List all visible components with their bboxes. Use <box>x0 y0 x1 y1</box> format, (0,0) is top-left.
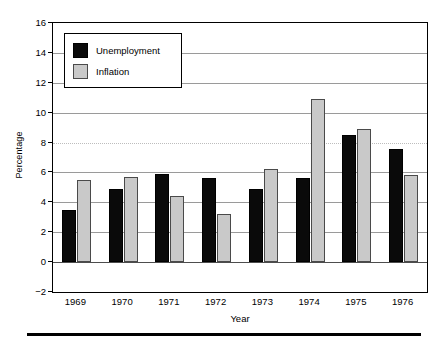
bar-group-1976 <box>380 23 427 292</box>
bar-unemployment-1975 <box>342 135 356 262</box>
bar-inflation-1970 <box>124 177 138 262</box>
y-tick-mark <box>48 231 52 232</box>
y-tick-mark <box>48 291 52 292</box>
legend-entry-inflation: Inflation <box>73 61 181 82</box>
x-tick-label-1973: 1973 <box>252 296 273 307</box>
bar-inflation-1972 <box>217 214 231 262</box>
chart-legend: Unemployment Inflation <box>64 33 182 88</box>
bottom-horizontal-rule <box>27 333 421 336</box>
bar-unemployment-1972 <box>202 178 216 262</box>
x-tick-label-1971: 1971 <box>158 296 179 307</box>
legend-label-inflation: Inflation <box>96 66 129 77</box>
legend-label-unemployment: Unemployment <box>96 45 160 56</box>
y-tick-label: 14 <box>35 46 46 57</box>
y-tick-label: 0 <box>41 256 46 267</box>
y-tick-mark <box>48 201 52 202</box>
bar-group-1975 <box>334 23 381 292</box>
bar-group-1973 <box>240 23 287 292</box>
y-tick-label: 16 <box>35 17 46 28</box>
bar-unemployment-1969 <box>62 210 76 262</box>
y-tick-mark <box>48 82 52 83</box>
y-tick-label: 12 <box>35 76 46 87</box>
x-axis-tick-labels: 19691970197119721973197419751976 <box>52 296 428 312</box>
bar-group-1974 <box>287 23 334 292</box>
bar-group-1972 <box>193 23 240 292</box>
legend-swatch-unemployment <box>73 43 88 58</box>
x-axis-title: Year <box>52 313 428 324</box>
x-tick-label-1974: 1974 <box>299 296 320 307</box>
bar-inflation-1969 <box>77 180 91 262</box>
y-tick-label: 4 <box>41 196 46 207</box>
y-axis-title: Percentage <box>14 110 24 200</box>
x-tick-label-1969: 1969 <box>65 296 86 307</box>
bar-unemployment-1970 <box>109 189 123 262</box>
y-tick-label: 10 <box>35 106 46 117</box>
bar-unemployment-1976 <box>389 149 403 263</box>
y-tick-mark <box>48 112 52 113</box>
bar-chart-figure: Percentage −20246810121416 1969197019711… <box>0 0 446 342</box>
bar-inflation-1976 <box>404 175 418 262</box>
y-tick-mark <box>48 142 52 143</box>
y-tick-mark <box>48 22 52 23</box>
legend-entry-unemployment: Unemployment <box>73 40 181 61</box>
x-tick-label-1970: 1970 <box>112 296 133 307</box>
y-tick-mark <box>48 171 52 172</box>
x-tick-label-1976: 1976 <box>392 296 413 307</box>
y-tick-mark <box>48 52 52 53</box>
y-tick-label: 8 <box>41 136 46 147</box>
y-tick-label: 2 <box>41 226 46 237</box>
bar-inflation-1975 <box>357 129 371 262</box>
bar-unemployment-1971 <box>155 174 169 262</box>
legend-swatch-inflation <box>73 64 88 79</box>
x-tick-label-1975: 1975 <box>345 296 366 307</box>
y-tick-label: −2 <box>35 286 46 297</box>
y-tick-mark <box>48 261 52 262</box>
bar-inflation-1974 <box>311 99 325 262</box>
bar-unemployment-1973 <box>249 189 263 262</box>
bar-inflation-1971 <box>170 196 184 262</box>
bar-unemployment-1974 <box>296 178 310 262</box>
bar-inflation-1973 <box>264 169 278 262</box>
x-tick-label-1972: 1972 <box>205 296 226 307</box>
y-tick-label: 6 <box>41 166 46 177</box>
